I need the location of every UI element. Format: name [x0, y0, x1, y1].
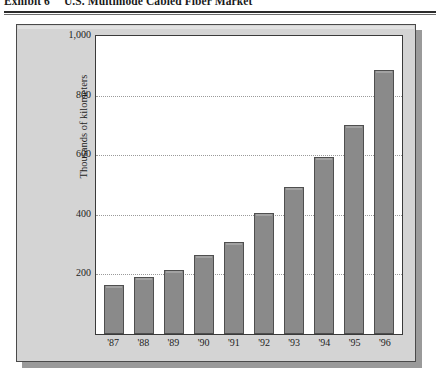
header-rule	[4, 11, 436, 13]
y-tick-label: 800	[47, 89, 91, 100]
bar-87	[104, 285, 124, 334]
bar-highlight	[256, 214, 272, 216]
x-tick-label: '87	[103, 337, 123, 357]
x-axis-ticks: '87'88'89'90'91'92'93'94'95'96	[95, 337, 403, 357]
x-tick-label: '95	[345, 337, 365, 357]
header-rule-secondary	[4, 14, 436, 15]
bar-highlight	[226, 243, 242, 245]
bar-highlight	[106, 286, 122, 288]
bar-96	[374, 70, 394, 334]
y-tick-label: 200	[47, 267, 91, 278]
bar-91	[224, 242, 244, 334]
exhibit-title-row: Exhibit 6U.S. Multimode Cabled Fiber Mar…	[4, 0, 252, 7]
bar-95	[344, 125, 364, 334]
chart-panel: Thousands of kilometers 1,00080060040020…	[16, 24, 416, 362]
x-tick-label: '90	[194, 337, 214, 357]
x-tick-label: '94	[314, 337, 334, 357]
x-tick-label: '91	[224, 337, 244, 357]
bar-highlight	[166, 271, 182, 273]
y-tick-label: 1,000	[47, 29, 91, 40]
x-tick-label: '92	[254, 337, 274, 357]
x-tick-label: '88	[133, 337, 153, 357]
x-tick-label: '89	[163, 337, 183, 357]
bar-94	[314, 157, 334, 334]
bar-90	[194, 255, 214, 334]
y-tick-label: 400	[47, 208, 91, 219]
bar-88	[134, 277, 154, 334]
bar-highlight	[376, 71, 392, 73]
plot-inner	[96, 36, 402, 334]
y-axis-ticks: 1,000800600400200	[43, 35, 91, 335]
x-tick-label: '96	[375, 337, 395, 357]
page-title: U.S. Multimode Cabled Fiber Market	[64, 0, 252, 7]
exhibit-label: Exhibit 6	[4, 0, 50, 7]
x-tick-label: '93	[284, 337, 304, 357]
bar-series	[96, 36, 402, 334]
y-tick-label: 600	[47, 148, 91, 159]
bar-highlight	[316, 158, 332, 160]
bar-92	[254, 213, 274, 334]
bar-highlight	[196, 256, 212, 258]
bar-highlight	[286, 188, 302, 190]
bar-93	[284, 187, 304, 335]
bar-highlight	[346, 126, 362, 128]
bar-highlight	[136, 278, 152, 280]
plot-area	[95, 35, 403, 335]
bar-89	[164, 270, 184, 334]
